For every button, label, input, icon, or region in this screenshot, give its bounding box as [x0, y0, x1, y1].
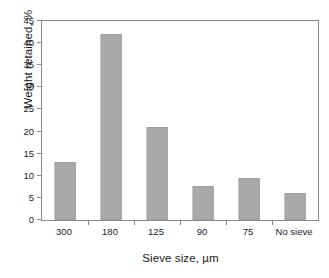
bar-180 [101, 34, 122, 220]
bar-90 [193, 186, 214, 220]
y-axis-tick: 5 [37, 197, 42, 198]
x-axis-category-label: 90 [197, 226, 208, 238]
y-axis-tick-label: 25 [8, 102, 34, 115]
y-axis-tick-label: 20 [8, 125, 34, 138]
bar-75 [239, 178, 260, 220]
x-axis-title: Sieve size, µm [41, 252, 320, 264]
y-axis-tick: 10 [37, 175, 42, 176]
x-axis-category-label: 300 [56, 226, 72, 238]
y-axis-tick-label: 35 [8, 58, 34, 71]
y-axis-tick: 15 [37, 153, 42, 154]
y-axis-tick-label: 0 [8, 213, 34, 226]
bar-125 [147, 127, 168, 220]
bar-chart-figure: Weight retained, % 051015202530354045 Si… [0, 0, 329, 278]
x-axis-category-label: No sieve [276, 226, 313, 238]
bar-300 [55, 162, 76, 220]
plot-frame: 051015202530354045 [41, 20, 319, 221]
x-axis-tick [272, 220, 273, 225]
y-axis-tick-label: 5 [8, 191, 34, 204]
y-axis-tick: 0 [37, 219, 42, 220]
y-axis-tick: 25 [37, 108, 42, 109]
y-axis-tick-label: 10 [8, 169, 34, 182]
y-axis-tick: 40 [37, 42, 42, 43]
y-axis-tick: 30 [37, 86, 42, 87]
x-axis-category-label: 75 [243, 226, 254, 238]
plot-area: 051015202530354045 [42, 21, 318, 220]
y-axis-tick-label: 45 [8, 14, 34, 27]
x-axis-tick [88, 220, 89, 225]
y-axis-tick: 20 [37, 131, 42, 132]
y-axis-tick-label: 40 [8, 36, 34, 49]
x-axis-tick [226, 220, 227, 225]
y-axis-tick-label: 30 [8, 80, 34, 93]
x-axis-category-label: 125 [148, 226, 164, 238]
bar-no-sieve [285, 193, 306, 220]
y-axis-tick: 35 [37, 64, 42, 65]
y-axis-tick-label: 15 [8, 147, 34, 160]
x-axis-category-label: 180 [102, 226, 118, 238]
x-axis-tick [180, 220, 181, 225]
y-axis-tick: 45 [37, 20, 42, 21]
x-axis-tick [134, 220, 135, 225]
